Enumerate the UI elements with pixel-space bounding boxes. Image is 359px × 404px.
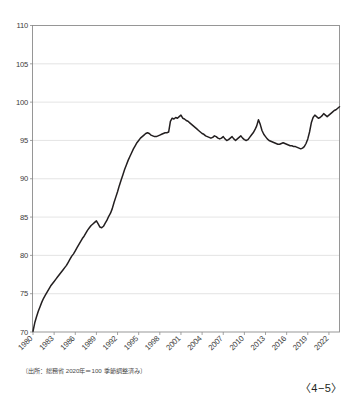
x-tick-label: 2001 [164, 334, 182, 352]
x-axis-tick-labels: 1980198319861989199219951998200120042007… [16, 333, 330, 352]
x-axis-tickmarks [33, 332, 329, 335]
x-tick-label: 1992 [101, 334, 119, 352]
y-axis-tick-labels: 707580859095100105110 [16, 21, 28, 337]
x-tick-label: 1986 [59, 334, 77, 352]
x-tick-label: 1995 [122, 333, 141, 352]
y-tick-label: 75 [20, 289, 28, 298]
y-tick-label: 90 [20, 174, 28, 183]
cpi-line-chart: 707580859095100105110 198019831986198919… [0, 0, 359, 404]
x-tick-label: 1989 [80, 334, 98, 352]
y-tick-label: 105 [16, 60, 28, 69]
figure-container: 707580859095100105110 198019831986198919… [0, 0, 359, 404]
x-tick-label: 1983 [37, 334, 55, 352]
x-tick-label: 2010 [228, 333, 247, 352]
x-tick-label: 2016 [270, 334, 288, 352]
y-tick-label: 80 [20, 251, 28, 260]
y-tick-label: 110 [16, 21, 28, 30]
figure-number: 〈4−5〉 [300, 379, 343, 395]
y-tick-label: 95 [20, 136, 28, 145]
gridlines-group [30, 26, 340, 333]
x-tick-label: 2022 [312, 334, 330, 352]
y-tick-label: 100 [16, 98, 28, 107]
x-tick-label: 2013 [249, 334, 267, 352]
x-tick-label: 2019 [291, 334, 309, 352]
source-note: 〔出所：総務省 2020年＝100 季節調整済み〕 [22, 366, 146, 375]
x-tick-label: 2007 [207, 334, 225, 352]
x-tick-label: 2004 [185, 333, 204, 352]
y-tick-label: 85 [20, 213, 28, 222]
x-tick-label: 1998 [143, 334, 161, 352]
